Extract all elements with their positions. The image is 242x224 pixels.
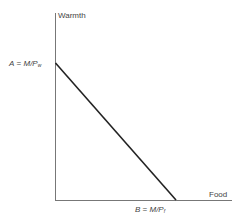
intercept-b-eq: = xyxy=(143,205,148,214)
intercept-b-sub: f xyxy=(164,208,165,214)
intercept-b-label: B = M/Pf xyxy=(135,205,165,214)
intercept-b-name: B xyxy=(135,205,140,214)
intercept-a-eq: = xyxy=(17,59,22,68)
intercept-b-expr: M/P xyxy=(149,205,163,214)
budget-line xyxy=(56,63,177,200)
y-axis-label: Warmth xyxy=(58,11,86,20)
intercept-a-sub: w xyxy=(38,62,42,68)
intercept-a-name: A xyxy=(9,59,14,68)
budget-diagram xyxy=(0,0,242,224)
x-axis-label: Food xyxy=(209,190,227,199)
intercept-a-label: A = M/Pw xyxy=(9,59,41,68)
intercept-a-expr: M/P xyxy=(23,59,37,68)
